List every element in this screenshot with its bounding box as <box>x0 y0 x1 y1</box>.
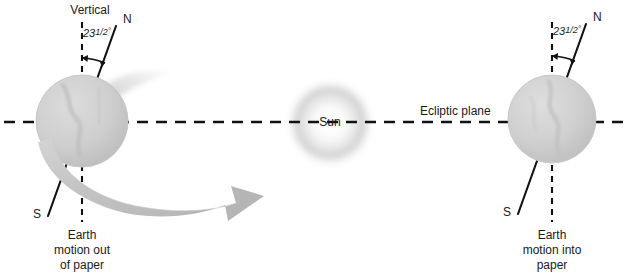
left-motion-line-1: Earth <box>32 228 132 243</box>
left-tilt-angle-value: 23 <box>83 27 95 39</box>
left-south-pole-label: S <box>33 207 41 221</box>
right-motion-line-3: paper <box>500 258 604 273</box>
right-motion-line-1: Earth <box>500 228 604 243</box>
left-motion-line-3: of paper <box>32 258 132 273</box>
left-tilt-angle-fraction: 1/2 <box>95 27 108 37</box>
right-earth-motion-label: Earth motion into paper <box>500 228 604 273</box>
right-motion-line-2: motion into <box>500 243 604 258</box>
left-earth-motion-label: Earth motion out of paper <box>32 228 132 273</box>
right-tilt-degree-symbol: ° <box>578 24 581 33</box>
right-tilt-angle-value: 23 <box>553 25 565 37</box>
right-tilt-angle-fraction: 1/2 <box>565 25 578 35</box>
earth-tilt-diagram: Vertical N S 231/2° Earth motion out of … <box>0 0 635 275</box>
sun-label: Sun <box>308 115 352 129</box>
ecliptic-plane-label: Ecliptic plane <box>420 104 491 118</box>
left-tilt-angle-label: 231/2° <box>83 26 111 39</box>
left-north-pole-label: N <box>123 12 132 26</box>
left-tilt-degree-symbol: ° <box>108 26 111 35</box>
left-motion-line-2: motion out <box>32 243 132 258</box>
right-tilt-angle-label: 231/2° <box>553 24 581 37</box>
right-north-pole-label: N <box>593 10 602 24</box>
right-south-pole-label: S <box>503 205 511 219</box>
vertical-label: Vertical <box>58 3 122 17</box>
right-earth-group <box>508 22 596 222</box>
